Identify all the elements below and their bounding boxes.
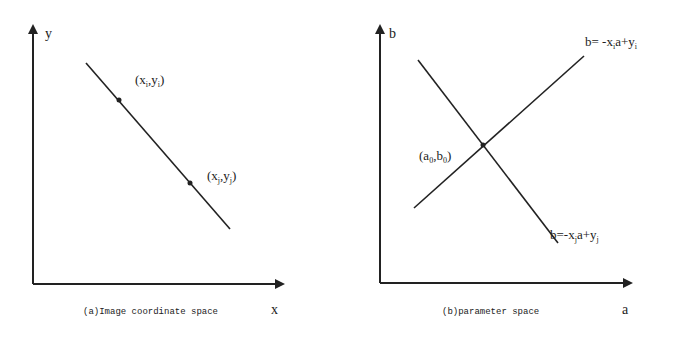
point-i-marker: [117, 98, 122, 103]
x-axis-label: x: [271, 302, 278, 317]
point-j-marker: [188, 181, 193, 186]
point-j-label: (xj,yj): [207, 168, 236, 185]
y-axis-label: y: [45, 26, 52, 41]
point-i-label: (xi,yi): [135, 72, 164, 89]
panel-image-space: y x (xi,yi) (xj,yj) (a)Image coordinate …: [33, 26, 283, 317]
b-axis-label: b: [389, 26, 396, 41]
panel-parameter-space: b a (a0,b0) b= -xia+yi b=-xja+yj (b)para…: [380, 26, 638, 317]
line-j-equation: b=-xja+yj: [550, 227, 599, 244]
line-i-equation: b= -xia+yi: [585, 34, 638, 51]
hough-transform-diagram: y x (xi,yi) (xj,yj) (a)Image coordinate …: [0, 0, 674, 338]
caption-b: (b)parameter space: [442, 307, 539, 317]
intersection-label: (a0,b0): [419, 148, 451, 165]
intersection-marker: [481, 143, 486, 148]
a-axis-label: a: [622, 302, 629, 317]
caption-a: (a)Image coordinate space: [83, 307, 218, 317]
line-i: [414, 56, 584, 208]
